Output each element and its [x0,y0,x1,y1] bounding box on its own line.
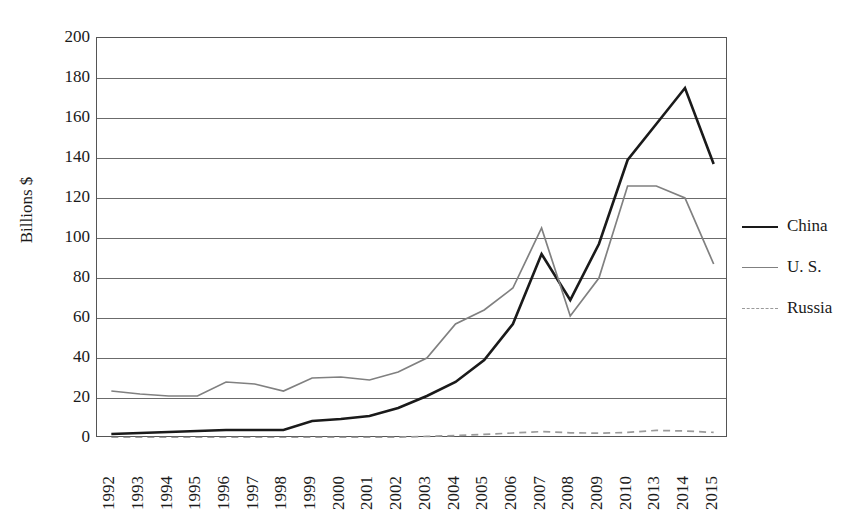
x-tick-label: 2007 [531,448,548,510]
x-tick-label: 2005 [473,448,490,510]
x-tick-label: 1992 [100,448,117,510]
legend-label: U. S. [787,257,821,277]
x-axis-tick-labels: 1992199319941995199619971998199920002001… [96,441,727,510]
legend-item: China [742,205,846,246]
x-tick-label: 2002 [387,448,404,510]
y-axis-title: Billions $ [17,140,37,280]
y-tick-label: 160 [46,108,90,125]
x-tick-label: 1994 [158,448,175,510]
y-tick-label: 140 [46,148,90,165]
series-line-china [111,88,713,434]
x-tick-label: 2015 [703,448,720,510]
legend-item: Russia [742,287,846,328]
line-chart: Billions $ 200180160140120100806040200 1… [0,0,846,510]
x-tick-label: 1995 [186,448,203,510]
x-tick-label: 1999 [301,448,318,510]
x-tick-label: 2000 [330,448,347,510]
x-tick-label: 2003 [416,448,433,510]
y-tick-label: 180 [46,68,90,85]
x-tick-label: 1996 [215,448,232,510]
y-axis-tick-labels: 200180160140120100806040200 [40,0,90,510]
x-tick-label: 2009 [588,448,605,510]
x-tick-label: 2010 [617,448,634,510]
legend-label: Russia [787,298,832,318]
legend-line-swatch [742,302,778,314]
x-tick-label: 2001 [358,448,375,510]
legend: ChinaU. S.Russia [742,205,846,328]
x-tick-label: 2013 [645,448,662,510]
x-tick-label: 2008 [559,448,576,510]
x-tick-label: 1998 [272,448,289,510]
x-tick-label: 2006 [502,448,519,510]
y-tick-label: 60 [46,308,90,325]
legend-line-swatch [742,261,778,273]
y-tick-label: 80 [46,268,90,285]
y-tick-label: 200 [46,28,90,45]
series-line-u-s [111,186,713,396]
legend-label: China [787,216,828,236]
y-tick-label: 100 [46,228,90,245]
y-tick-label: 20 [46,388,90,405]
y-tick-label: 40 [46,348,90,365]
x-tick-label: 1993 [129,448,146,510]
x-tick-label: 2004 [445,448,462,510]
series-lines [97,38,728,438]
legend-line-swatch [742,220,778,232]
legend-item: U. S. [742,246,846,287]
y-tick-label: 0 [46,428,90,445]
plot-area [96,37,727,437]
x-tick-label: 1997 [244,448,261,510]
x-tick-label: 2014 [674,448,691,510]
y-tick-label: 120 [46,188,90,205]
